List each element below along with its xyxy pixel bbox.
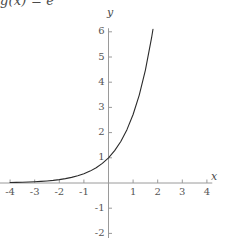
y-tick-label: 6 [79, 25, 105, 36]
y-tick-label: 4 [79, 76, 105, 87]
y-tick-label: -1 [79, 202, 105, 213]
axes-group [0, 28, 212, 238]
y-tick-label: 3 [79, 101, 105, 112]
y-tick-label: 5 [79, 51, 105, 62]
y-axis-label: y [107, 6, 113, 19]
plot-canvas [0, 0, 226, 238]
x-tick-label: 4 [193, 186, 221, 197]
exponential-function-plot: g(x) = ex -4-3-2-11234-2-1123456 y x [0, 0, 226, 238]
y-tick-label: 2 [79, 126, 105, 137]
x-axis-label: x [211, 170, 217, 183]
y-tick-label: 1 [79, 151, 105, 162]
y-tick-label: -2 [79, 227, 105, 238]
x-tick-label: -1 [70, 186, 98, 197]
